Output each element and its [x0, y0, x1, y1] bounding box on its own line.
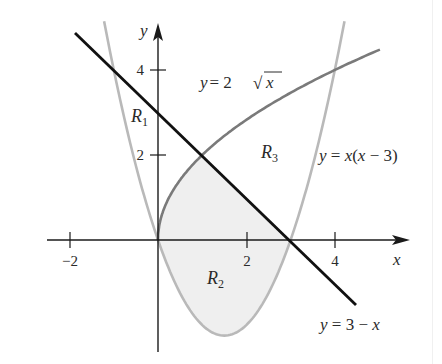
region-label-r3: R3	[260, 142, 278, 165]
x-tick-label-2: 2	[243, 253, 251, 269]
y-axis-label: y	[138, 21, 148, 40]
x-tick-label-4: 4	[331, 253, 339, 269]
sqrt-equation-label: y=2 √ x	[198, 72, 282, 93]
page-edge-divider	[432, 0, 433, 364]
region-diagram: −2 2 4 4 2 x y y=2 √ x y = x(x − 3) y = …	[0, 0, 442, 364]
svg-text:y=2: y=2	[198, 73, 232, 92]
y-tick-label-4: 4	[137, 62, 145, 78]
svg-text:x: x	[265, 73, 274, 92]
x-tick-label-neg2: −2	[62, 253, 78, 269]
x-axis-label: x	[392, 250, 401, 269]
parabola-equation-label: y = x(x − 3)	[317, 146, 398, 165]
svg-text:√: √	[253, 74, 263, 93]
region-label-r1: R1	[130, 106, 148, 129]
y-tick-label-2: 2	[137, 147, 145, 163]
y-axis	[150, 23, 166, 352]
line-equation-label: y = 3 − x	[318, 315, 380, 334]
